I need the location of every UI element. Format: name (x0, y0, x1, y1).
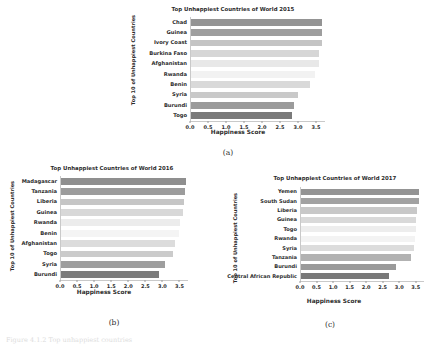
bar-row: Burkina Faso (190, 50, 325, 57)
x-axis-spine-2016 (60, 280, 188, 281)
bar (60, 188, 185, 195)
tick-mark (128, 280, 129, 282)
category-label: Burundi (164, 103, 190, 108)
category-label: Guinea (277, 217, 300, 222)
category-label: Guinea (37, 210, 60, 215)
bar-row: Syria (60, 261, 188, 268)
category-label: Madagascar (22, 179, 60, 184)
category-label: Burundi (34, 272, 60, 277)
category-label: Yemen (278, 189, 300, 194)
subfigure-caption-a: (a) (178, 148, 278, 157)
bar-row: Burundi (300, 264, 424, 270)
bar (300, 189, 419, 195)
bar (60, 230, 179, 237)
tick-mark (349, 281, 350, 283)
tick-mark (111, 280, 112, 282)
bar-row: Chad (190, 19, 325, 26)
bar (190, 50, 319, 57)
bar (190, 29, 322, 36)
tick-mark (298, 121, 299, 123)
category-label: Syria (282, 246, 300, 251)
category-label: South Sudan (260, 199, 300, 204)
category-label: Benin (40, 231, 60, 236)
tick-mark (226, 121, 227, 123)
tick-mark (366, 281, 367, 283)
y-axis-label-2016: Top 10 of Unhappiest Countries (9, 171, 15, 281)
bar-row: Guinea (60, 209, 188, 216)
tick-mark (415, 281, 416, 283)
tick-mark (280, 121, 281, 123)
bar-row: Burundi (60, 271, 188, 278)
bar (60, 209, 183, 216)
bar (300, 226, 416, 232)
bar-row: Guinea (300, 217, 424, 223)
bar (60, 240, 175, 247)
bar (60, 271, 159, 278)
category-label: Rwanda (274, 236, 300, 241)
x-axis-spine-2017 (300, 281, 424, 282)
tick-mark (208, 121, 209, 123)
tick-mark (162, 280, 163, 282)
y-axis-spine-2015 (190, 17, 191, 121)
bar-row: Benin (190, 81, 325, 88)
bars-2016: MadagascarTanzaniaLiberiaGuineaRwandaBen… (60, 176, 188, 280)
tick-label: 1.5 (345, 284, 354, 290)
bar (190, 112, 292, 119)
category-label: Guinea (167, 30, 190, 35)
category-label: Liberia (277, 208, 300, 213)
bar (300, 264, 396, 270)
bar-row: Afghanistan (190, 60, 325, 67)
subfigure-caption-b: (b) (84, 318, 144, 327)
tick-label: 3.0 (395, 284, 404, 290)
category-label: Benin (170, 82, 190, 87)
bar (300, 236, 415, 242)
bar (190, 81, 310, 88)
bar (190, 71, 315, 78)
category-label: Togo (173, 113, 190, 118)
bar (60, 219, 180, 226)
bar-row: Liberia (60, 199, 188, 206)
tick-label: 2.5 (378, 284, 387, 290)
category-label: Togo (43, 251, 60, 256)
bar (190, 92, 298, 99)
category-label: Rwanda (34, 220, 60, 225)
category-label: Burundi (274, 264, 300, 269)
cut-off-figure-caption: Figure 4.1.2 Top unhappiest countries (6, 336, 176, 344)
category-label: Syria (172, 92, 190, 97)
category-label: Central African Republic (227, 274, 300, 279)
tick-mark (300, 281, 301, 283)
bar-row: Syria (190, 92, 325, 99)
x-axis-spine-2015 (190, 121, 325, 122)
bar-row: Yemen (300, 189, 424, 195)
tick-mark (316, 121, 317, 123)
category-label: Liberia (37, 199, 60, 204)
category-label: Tanzania (31, 189, 60, 194)
bar (60, 261, 165, 268)
category-label: Tanzania (272, 255, 300, 260)
y-axis-spine-2016 (60, 176, 61, 280)
bar (300, 273, 389, 279)
category-label: Syria (42, 262, 60, 267)
category-label: Ivory Coast (154, 40, 190, 45)
tick-label: 0.0 (296, 284, 305, 290)
chart-2015: Top Unhappiest Countries of World 2015 T… (118, 3, 348, 138)
tick-mark (316, 281, 317, 283)
x-axis-label-2016: Happiness Score (12, 289, 196, 295)
bar-row: Togo (300, 226, 424, 232)
bar-row: Tanzania (60, 188, 188, 195)
bar-row: Burundi (190, 102, 325, 109)
bar (190, 19, 322, 26)
bar-row: Togo (60, 251, 188, 258)
bar-row: Benin (60, 230, 188, 237)
bar (190, 102, 294, 109)
bar (190, 40, 322, 47)
bar-row: Ivory Coast (190, 40, 325, 47)
bar-row: Togo (190, 112, 325, 119)
tick-mark (179, 280, 180, 282)
tick-mark (333, 281, 334, 283)
tick-mark (262, 121, 263, 123)
bar (300, 254, 411, 260)
category-label: Rwanda (164, 72, 190, 77)
category-label: Afghanistan (152, 61, 190, 66)
